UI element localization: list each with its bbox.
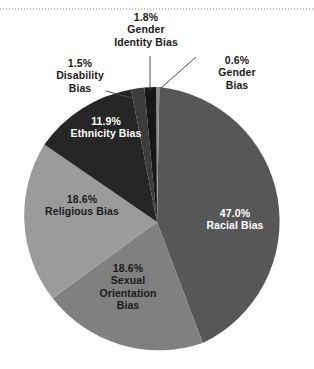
pie-slices (24, 87, 279, 350)
leader-line-gender (161, 57, 196, 88)
pie-chart-svg (0, 0, 314, 369)
pie-chart-figure: 1.8% Gender Identity Bias 0.6% Gender Bi… (0, 0, 314, 369)
